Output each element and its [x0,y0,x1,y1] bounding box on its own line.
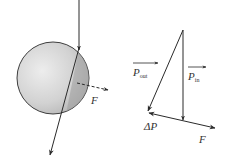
vector-diagram-panel: Pout Pin ΔP F [132,30,215,145]
delta-p-f-vector [149,113,215,128]
svg-text:Pout: Pout [132,66,148,79]
optical-force-diagram: F Pout Pin ΔP F [0,0,230,168]
p-out-label: Pout [132,63,158,79]
force-label-left: F [90,94,98,106]
svg-text:Pin: Pin [187,70,199,83]
force-label-right: F [198,133,206,145]
p-out-vector [148,30,183,111]
p-in-label: Pin [187,67,206,83]
sphere-panel: F [17,0,108,155]
delta-p-label: ΔP [143,120,157,132]
